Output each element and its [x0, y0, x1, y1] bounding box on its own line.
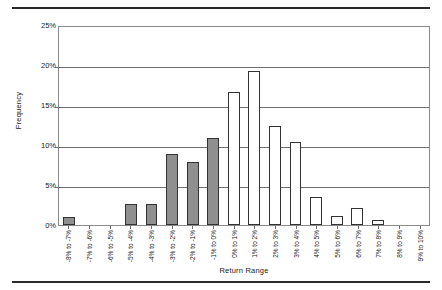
- x-tick-label: -1% to 0%: [210, 230, 217, 260]
- bar: [248, 71, 260, 225]
- plot-area: [58, 26, 430, 226]
- x-tick-label: 5% to 6%: [334, 230, 341, 258]
- page-rule-top: [12, 7, 430, 9]
- x-axis-title: Return Range: [58, 266, 430, 275]
- x-tick-label: 1% to 2%: [251, 230, 258, 258]
- histogram-figure: Frequency 25% 20% 15% 10% 5% 0%: [0, 14, 442, 276]
- bar: [372, 220, 384, 225]
- x-tick-label: -6% to -5%: [106, 230, 113, 262]
- x-tick-label: 3% to 4%: [292, 230, 299, 258]
- bar-slot: [347, 27, 368, 225]
- bar-slot: [224, 27, 245, 225]
- y-tick-label-10: 10%: [30, 142, 56, 150]
- bar: [63, 217, 75, 225]
- bar: [166, 154, 178, 225]
- x-tick-label: 8% to 9%: [396, 230, 403, 258]
- bar-slot: [409, 27, 430, 225]
- x-tick-label: -5% to -4%: [127, 230, 134, 262]
- bar: [269, 126, 281, 225]
- page-rule-bottom: [12, 281, 430, 283]
- bar: [228, 92, 240, 225]
- x-tick-label: -7% to -6%: [86, 230, 93, 262]
- bar-slot: [100, 27, 121, 225]
- y-tick-label-25: 25%: [30, 22, 56, 30]
- x-tick-label: 4% to 5%: [313, 230, 320, 258]
- bar: [146, 204, 158, 225]
- x-tick-label: -4% to -3%: [148, 230, 155, 262]
- x-tick-label: 6% to 7%: [354, 230, 361, 258]
- bar-slot: [244, 27, 265, 225]
- x-tick-label: 7% to 8%: [375, 230, 382, 258]
- x-axis-tick-labels: -8% to -7% -7% to -6% -6% to -5% -5% to …: [58, 230, 430, 266]
- bar-slot: [121, 27, 142, 225]
- bar: [290, 142, 302, 225]
- bar-slot: [265, 27, 286, 225]
- y-axis-ticks: 25% 20% 15% 10% 5% 0%: [0, 14, 56, 276]
- bar-slot: [388, 27, 409, 225]
- y-tick-label-5: 5%: [30, 182, 56, 190]
- y-tick-label-0: 0%: [30, 222, 56, 230]
- x-tick-label: 2% to 3%: [272, 230, 279, 258]
- bar-slot: [59, 27, 80, 225]
- bar-slot: [306, 27, 327, 225]
- bar: [310, 197, 322, 226]
- y-tick-label-15: 15%: [30, 102, 56, 110]
- bar-slot: [141, 27, 162, 225]
- bar: [331, 216, 343, 225]
- x-tick-label: 0% to 1%: [230, 230, 237, 258]
- x-tick-label: -8% to -7%: [65, 230, 72, 262]
- bar-slot: [326, 27, 347, 225]
- x-tick-label: -2% to -1%: [189, 230, 196, 262]
- bar-slot: [162, 27, 183, 225]
- bar-slot: [203, 27, 224, 225]
- bar-slot: [80, 27, 101, 225]
- bar: [125, 204, 137, 225]
- x-tick-label: 9% to 10%: [416, 230, 423, 261]
- bar-slot: [182, 27, 203, 225]
- bar-series: [59, 27, 429, 225]
- bar-slot: [285, 27, 306, 225]
- bar: [187, 162, 199, 225]
- bar: [351, 208, 363, 225]
- x-tick-label: -3% to -2%: [168, 230, 175, 262]
- y-tick-label-20: 20%: [30, 62, 56, 70]
- bar: [207, 138, 219, 225]
- bar-slot: [367, 27, 388, 225]
